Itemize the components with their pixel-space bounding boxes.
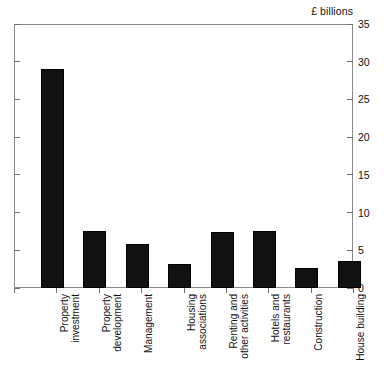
y-axis-tick-label: 30 bbox=[358, 57, 370, 68]
y-axis-tick-right bbox=[347, 174, 353, 175]
x-axis-category-label: Housing associations bbox=[186, 294, 208, 379]
y-axis-tick-label: 35 bbox=[358, 19, 370, 30]
y-axis-tick-left bbox=[14, 137, 20, 138]
bar-chart: £ billions 05101520253035 Property inves… bbox=[0, 0, 384, 379]
x-axis-tick bbox=[56, 288, 57, 293]
bars-layer bbox=[14, 24, 353, 288]
y-axis-tick-left bbox=[14, 61, 20, 62]
x-axis-category-label: Property development bbox=[101, 294, 123, 379]
x-axis-tick bbox=[226, 288, 227, 293]
y-axis-tick-label: 25 bbox=[358, 94, 370, 105]
y-axis-tick-label: 10 bbox=[358, 208, 370, 219]
x-axis-category-label: Renting and other activities bbox=[228, 294, 250, 379]
x-axis-tick bbox=[268, 288, 269, 293]
y-axis-tick-left bbox=[14, 250, 20, 251]
x-axis-category-label: Management bbox=[143, 294, 154, 379]
bar bbox=[253, 231, 276, 288]
y-axis-tick-right bbox=[347, 61, 353, 62]
bar bbox=[126, 244, 149, 289]
bar bbox=[83, 231, 106, 288]
y-axis-tick-left bbox=[14, 99, 20, 100]
x-axis-category-label: Hotels and restaurants bbox=[270, 294, 292, 379]
x-axis-tick bbox=[184, 288, 185, 293]
x-axis-category-label: Property investment bbox=[59, 294, 81, 379]
y-axis-tick-left bbox=[14, 24, 20, 25]
y-axis-tick-right bbox=[347, 212, 353, 213]
y-axis-tick-left bbox=[14, 212, 20, 213]
bar bbox=[295, 268, 318, 288]
y-axis-tick-label: 5 bbox=[358, 245, 364, 256]
y-axis-tick-right bbox=[347, 250, 353, 251]
x-axis-tick bbox=[14, 288, 15, 293]
x-axis-tick bbox=[141, 288, 142, 293]
y-axis-tick-right bbox=[347, 24, 353, 25]
bar bbox=[211, 232, 234, 288]
bar bbox=[168, 264, 191, 288]
y-axis-tick-label: 20 bbox=[358, 132, 370, 143]
y-axis-tick-label: 0 bbox=[358, 283, 364, 294]
bar bbox=[41, 69, 64, 288]
y-axis-tick-right bbox=[347, 137, 353, 138]
x-axis-tick bbox=[311, 288, 312, 293]
y-axis-tick-left bbox=[14, 174, 20, 175]
chart-unit-title: £ billions bbox=[311, 5, 353, 17]
x-axis-category-label: House building bbox=[355, 294, 366, 379]
x-axis-category-label: Construction bbox=[313, 294, 324, 379]
y-axis-tick-label: 15 bbox=[358, 170, 370, 181]
x-axis-tick bbox=[99, 288, 100, 293]
y-axis-tick-right bbox=[347, 99, 353, 100]
x-axis-tick bbox=[353, 288, 354, 293]
